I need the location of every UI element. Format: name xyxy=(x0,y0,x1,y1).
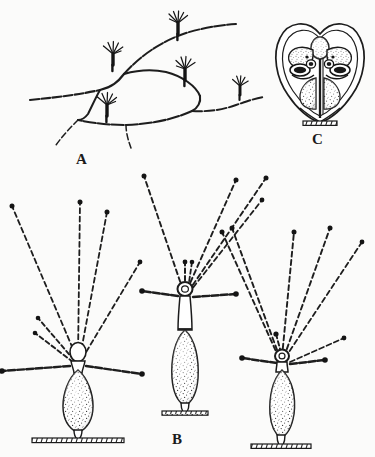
panel-label-c: C xyxy=(312,132,323,147)
panel-label-b: B xyxy=(172,432,183,447)
neck-center-polyp xyxy=(178,296,192,330)
substrate-right-polyp xyxy=(251,444,311,448)
mouth-right-polyp xyxy=(279,353,285,359)
panel-label-a: A xyxy=(76,152,87,167)
figure-plate xyxy=(0,0,375,457)
substrate-left-polyp xyxy=(32,438,124,443)
mouth-center-polyp xyxy=(182,286,189,292)
panel-c-substrate xyxy=(303,121,337,125)
substrate-center-polyp xyxy=(162,411,208,415)
hypostome-left-polyp xyxy=(70,343,86,362)
